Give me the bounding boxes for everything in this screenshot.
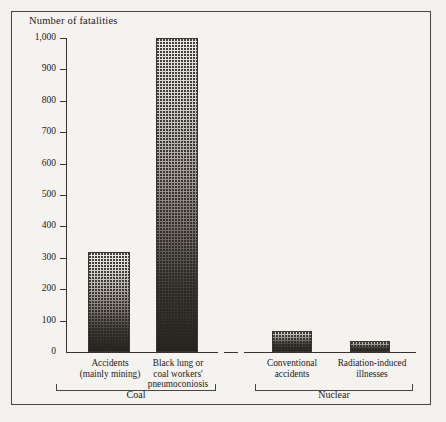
y-tick-700	[60, 132, 66, 133]
category-label-line1: Radiation-induced	[322, 358, 422, 369]
y-tick-label-1000: 1,000	[22, 33, 56, 43]
x-axis-line-coal	[66, 352, 218, 353]
y-axis-line	[66, 38, 67, 353]
bar-conventional-accidents	[272, 331, 312, 352]
y-tick-label-900: 900	[22, 64, 56, 74]
y-tick-800	[60, 101, 66, 102]
y-tick-label-300: 300	[22, 253, 56, 263]
category-label-radiation-illnesses: Radiation-induced illnesses	[322, 358, 422, 379]
bar-radiation-induced-illnesses	[350, 341, 390, 352]
y-tick-100	[60, 321, 66, 322]
group-label-nuclear: Nuclear	[255, 389, 413, 400]
y-tick-label-200: 200	[22, 284, 56, 294]
y-tick-label-0: 0	[22, 347, 56, 357]
y-tick-label-600: 600	[22, 159, 56, 169]
y-tick-label-100: 100	[22, 316, 56, 326]
y-tick-900	[60, 69, 66, 70]
x-axis-line-gap	[224, 352, 238, 353]
category-label-line1: Black lung or	[129, 358, 227, 369]
chart-plot-area: Number of fatalities 1,000 900 800 700 6…	[0, 0, 446, 422]
x-axis-line-nuclear	[244, 352, 416, 353]
category-label-line2: illnesses	[322, 369, 422, 380]
y-tick-label-400: 400	[22, 221, 56, 231]
y-tick-label-800: 800	[22, 96, 56, 106]
y-tick-600	[60, 164, 66, 165]
y-tick-400	[60, 226, 66, 227]
category-label-line2: coal workers'	[129, 369, 227, 380]
figure: Number of fatalities 1,000 900 800 700 6…	[0, 0, 446, 422]
y-tick-label-500: 500	[22, 190, 56, 200]
y-tick-300	[60, 258, 66, 259]
y-tick-1000	[60, 38, 66, 39]
y-tick-500	[60, 195, 66, 196]
chart-axis-title: Number of fatalities	[29, 15, 118, 26]
y-tick-200	[60, 289, 66, 290]
group-label-coal: Coal	[56, 389, 216, 400]
y-tick-label-700: 700	[22, 127, 56, 137]
bar-accidents-mining	[88, 252, 130, 352]
bar-black-lung	[156, 38, 198, 352]
